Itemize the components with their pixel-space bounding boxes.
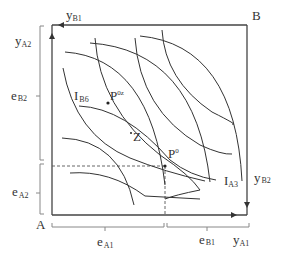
label-z: Z — [133, 129, 141, 144]
label-corner-a: A — [36, 217, 46, 232]
label-y-a1: yA1 — [233, 232, 249, 248]
label-y-a2: yA2 — [15, 33, 31, 49]
label-corner-b: B — [252, 8, 261, 23]
label-p0z: P0z — [110, 88, 124, 103]
label-e-a2: eA2 — [12, 184, 29, 200]
label-y-b1: yB1 — [66, 7, 82, 23]
arrow-right-icon — [231, 212, 237, 218]
label-e-a1: eA1 — [97, 234, 114, 250]
label-y-b2: yB2 — [254, 170, 271, 185]
point-z — [130, 132, 132, 134]
label-p0: P0 — [168, 146, 179, 161]
arrow-left-icon — [58, 22, 64, 28]
left-bracket — [36, 26, 44, 214]
b-indifference-curves — [63, 30, 234, 199]
label-i-b6: IB6 — [74, 88, 89, 104]
dashed-guides — [52, 166, 165, 215]
label-i-a3: IA3 — [224, 173, 238, 189]
label-e-b2: eB2 — [11, 88, 27, 103]
edgeworth-box-diagram: yB1 B yA2 eB2 eA2 A eA1 eB1 yA1 yB2 IB6 … — [0, 0, 285, 257]
arrow-down-icon — [244, 202, 250, 208]
point-p0 — [163, 164, 166, 167]
label-e-b1: eB1 — [199, 232, 215, 247]
arrow-up-icon — [49, 33, 55, 39]
bottom-bracket — [52, 223, 249, 231]
